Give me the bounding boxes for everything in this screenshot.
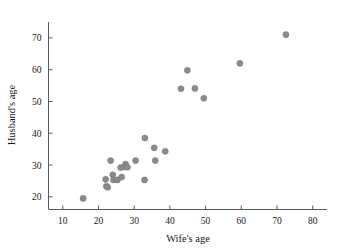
y-tick-label: 40: [32, 129, 42, 139]
data-point: [178, 86, 184, 92]
data-point: [105, 184, 111, 190]
data-point: [237, 60, 243, 66]
x-tick-label: 10: [58, 216, 68, 226]
data-point: [152, 157, 158, 163]
y-axis-title: Husband's age: [6, 84, 17, 145]
data-point: [80, 195, 86, 201]
y-tick-label: 20: [32, 192, 42, 202]
x-tick-label: 70: [272, 216, 282, 226]
data-point: [119, 174, 125, 180]
x-tick-label: 40: [165, 216, 175, 226]
x-axis-ticks: 1020304050607080: [58, 206, 318, 226]
y-tick-label: 30: [32, 161, 42, 171]
plot-canvas: 1020304050607080 203040506070 Wife's age…: [0, 0, 341, 250]
data-point: [124, 164, 130, 170]
x-tick-label: 20: [94, 216, 104, 226]
x-tick-label: 60: [237, 216, 247, 226]
data-point: [151, 145, 157, 151]
data-point: [133, 157, 139, 163]
data-point: [108, 157, 114, 163]
data-point: [141, 177, 147, 183]
data-point: [103, 176, 109, 182]
x-tick-label: 80: [308, 216, 318, 226]
axes-group: [49, 22, 328, 210]
data-point: [192, 85, 198, 91]
data-point: [142, 135, 148, 141]
data-point: [162, 148, 168, 154]
x-tick-label: 50: [201, 216, 211, 226]
data-point: [283, 32, 289, 38]
data-point: [184, 67, 190, 73]
y-axis-ticks: 203040506070: [32, 33, 53, 202]
data-point: [201, 95, 207, 101]
x-axis-title: Wife's age: [166, 233, 210, 244]
x-tick-label: 30: [129, 216, 139, 226]
y-tick-label: 70: [32, 33, 42, 43]
scatter-plot-figure: 1020304050607080 203040506070 Wife's age…: [0, 0, 341, 250]
data-points-group: [80, 32, 289, 202]
y-tick-label: 60: [32, 65, 42, 75]
y-tick-label: 50: [32, 97, 42, 107]
